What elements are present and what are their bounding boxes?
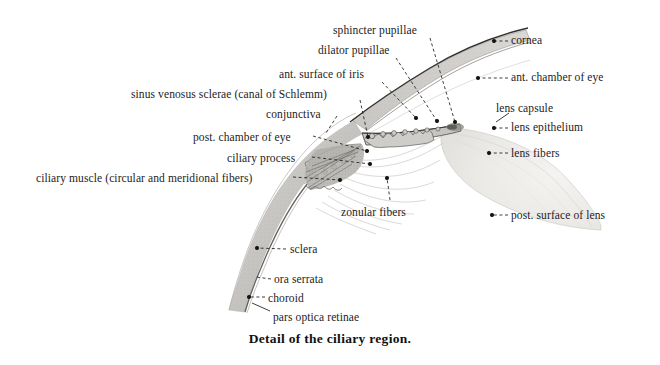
- label-conjunctiva: conjunctiva: [266, 108, 321, 121]
- label-sclera: sclera: [290, 243, 317, 256]
- label-ora-serrata: ora serrata: [274, 273, 323, 286]
- label-zonular-fibers: zonular fibers: [341, 206, 406, 219]
- label-dilator-pupillae: dilator pupillae: [318, 44, 390, 57]
- leader-dot-sinus-venosus-sclerae: [366, 135, 369, 138]
- leader-dot-choroid: [247, 295, 250, 298]
- figure-page: sphincter pupillaedilator pupillaeant. s…: [0, 0, 660, 365]
- leader-dot-post-chamber-of-eye: [365, 149, 368, 152]
- label-pars-optica-retinae: pars optica retinae: [273, 311, 359, 324]
- leader-dot-ciliary-muscle: [338, 178, 341, 181]
- label-cornea: cornea: [511, 34, 542, 47]
- leader-dot-sclera: [255, 246, 258, 249]
- label-lens-capsule: lens capsule: [496, 102, 553, 115]
- label-ciliary-process: ciliary process: [227, 152, 295, 165]
- leader-dot-post-surface-of-lens: [490, 213, 493, 216]
- label-ant-surface-of-iris: ant. surface of iris: [279, 68, 364, 81]
- leader-dot-cornea: [492, 39, 495, 42]
- leader-line-ora-serrata: [256, 277, 271, 279]
- label-ciliary-muscle: ciliary muscle (circular and meridional …: [36, 172, 252, 185]
- label-lens-fibers: lens fibers: [511, 147, 560, 160]
- label-sphincter-pupillae: sphincter pupillae: [333, 24, 417, 37]
- leader-dot-sphincter-pupillae: [453, 120, 456, 123]
- leader-dot-lens-epithelium: [492, 126, 495, 129]
- label-post-surface-of-lens: post. surface of lens: [511, 209, 605, 222]
- label-ant-chamber-of-eye: ant. chamber of eye: [511, 71, 604, 84]
- label-lens-epithelium: lens epithelium: [511, 121, 583, 134]
- leader-dot-ant-surface-of-iris: [414, 116, 417, 119]
- label-post-chamber-of-eye: post. chamber of eye: [193, 131, 291, 144]
- leader-dot-zonular-fibers: [385, 176, 388, 179]
- label-sinus-venosus-sclerae: sinus venosus sclerae (canal of Schlemm): [131, 88, 327, 101]
- leader-dot-ciliary-process: [368, 162, 371, 165]
- leader-dot-ant-chamber-of-eye: [476, 76, 479, 79]
- label-choroid: choroid: [268, 292, 304, 305]
- figure-caption: Detail of the ciliary region.: [0, 331, 660, 347]
- leader-dot-lens-fibers: [487, 151, 490, 154]
- leader-dot-dilator-pupillae: [435, 119, 438, 122]
